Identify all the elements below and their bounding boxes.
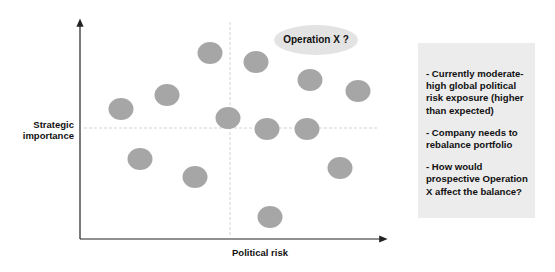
- data-point: [258, 206, 283, 228]
- notes-panel: - Currently moderate-high global politic…: [418, 43, 535, 218]
- data-point: [128, 148, 153, 170]
- note-exposure: - Currently moderate-high global politic…: [426, 68, 529, 117]
- data-point: [155, 84, 180, 106]
- data-point: [244, 51, 269, 73]
- data-point: [198, 42, 223, 64]
- data-point: [255, 118, 280, 140]
- data-point: [295, 118, 320, 140]
- operation-x-label: Operation X ?: [274, 34, 358, 45]
- y-axis-label-line2: importance: [18, 130, 74, 141]
- y-axis-label-line1: Strategic: [18, 119, 74, 130]
- y-axis-label: Strategic importance: [18, 119, 74, 141]
- data-point: [216, 107, 241, 129]
- data-point: [328, 157, 353, 179]
- note-rebalance: - Company needs to rebalance portfolio: [426, 127, 529, 151]
- data-point: [298, 69, 323, 91]
- data-point: [183, 166, 208, 188]
- data-point: [346, 80, 371, 102]
- note-operation-x: - How would prospective Operation X affe…: [426, 161, 529, 198]
- data-point: [109, 98, 134, 120]
- data-points: [109, 42, 371, 228]
- x-axis-label: Political risk: [200, 247, 320, 258]
